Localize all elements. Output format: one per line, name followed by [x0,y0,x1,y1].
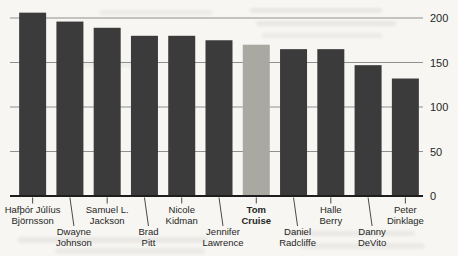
x-tick-label-1-line-1: Johnson [56,237,92,248]
x-tick-label-7-line-0: Daniel [284,226,311,237]
x-leader-line-9 [368,198,372,227]
x-tick-label-9-line-0: Danny [358,226,386,237]
bar-chart: 050100150200Hafþór JúlíusBjörnssonDwayne… [0,0,458,256]
bar-chart-canvas: 050100150200Hafþór JúlíusBjörnssonDwayne… [0,0,458,256]
y-tick-label-100: 100 [430,101,448,113]
x-tick-label-2-line-0: Samuel L. [86,204,129,215]
x-tick-label-8-line-0: Halle [320,204,342,215]
x-leader-line-5 [219,198,223,227]
x-tick-label-0-line-0: Hafþór Júlíus [5,204,61,215]
y-tick-label-150: 150 [430,57,448,69]
bar-5 [206,40,233,196]
bar-7 [280,49,307,196]
bar-4 [168,36,195,196]
x-tick-label-5-line-0: Jennifer [206,226,240,237]
y-tick-label-0: 0 [430,190,436,202]
x-tick-label-1-line-0: Dwayne [57,226,91,237]
bar-3 [131,36,158,196]
bar-10 [392,79,419,196]
bar-1 [56,22,83,196]
x-leader-line-7 [294,198,298,227]
x-tick-label-3-line-0: Brad [138,226,158,237]
x-tick-label-9-line-1: DeVito [358,237,386,248]
x-tick-label-10-line-1: Dinklage [387,215,424,226]
x-tick-label-2-line-1: Jackson [90,215,125,226]
x-tick-label-7-line-1: Radcliffe [279,237,316,248]
bar-8 [317,49,344,196]
y-tick-label-200: 200 [430,12,448,24]
x-tick-label-4-line-1: Kidman [166,215,198,226]
x-tick-label-5-line-1: Lawrence [202,237,243,248]
x-tick-label-4-line-0: Nicole [169,204,195,215]
bar-9 [355,65,382,196]
bar-highlighted [243,45,270,196]
x-tick-label-6-line-1: Cruise [241,215,271,226]
x-tick-label-6-line-0: Tom [247,204,266,215]
x-tick-label-0-line-1: Björnsson [12,215,54,226]
y-tick-label-50: 50 [430,146,442,158]
x-leader-line-1 [70,198,74,227]
x-leader-line-3 [144,198,148,227]
x-tick-label-10-line-0: Peter [394,204,417,215]
x-tick-label-8-line-1: Berry [319,215,342,226]
bar-0 [19,13,46,196]
x-tick-label-3-line-1: Pitt [142,237,156,248]
bar-2 [94,28,121,196]
